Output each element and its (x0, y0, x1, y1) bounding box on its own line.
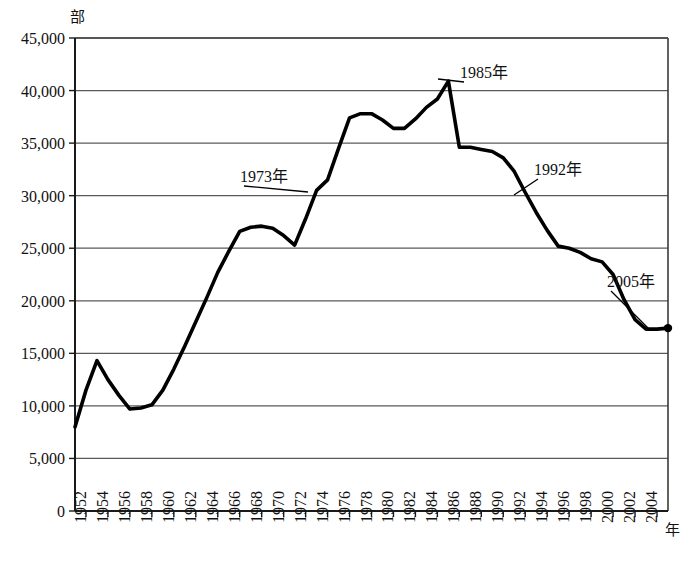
y-tick-label: 35,000 (21, 135, 65, 152)
plot-frame (75, 38, 668, 511)
x-tick-label: 2002 (621, 491, 638, 523)
y-tick-label: 10,000 (21, 398, 65, 415)
line-chart-figure: 05,00010,00015,00020,00025,00030,00035,0… (0, 0, 691, 573)
x-tick-label: 1982 (401, 491, 418, 523)
chart-canvas: 05,00010,00015,00020,00025,00030,00035,0… (0, 0, 691, 573)
annotation-leader-line (244, 186, 308, 192)
x-tick-label: 1952 (72, 491, 89, 523)
x-tick-label: 1968 (248, 491, 265, 523)
x-tick-label: 1994 (533, 491, 550, 523)
x-tick-label: 1962 (182, 491, 199, 523)
x-tick-label: 1956 (116, 491, 133, 523)
x-tick-label: 1986 (445, 491, 462, 523)
x-tick-label: 1984 (423, 491, 440, 523)
x-tick-label: 1988 (467, 491, 484, 523)
annotation-label: 1992年 (534, 161, 582, 178)
y-tick-label: 25,000 (21, 240, 65, 257)
y-tick-label: 0 (57, 503, 65, 520)
y-tick-label: 40,000 (21, 83, 65, 100)
x-tick-label: 1974 (314, 491, 331, 523)
x-axis-tick-labels: 1952195419561958196019621964196619681970… (72, 491, 660, 523)
x-tick-label: 1998 (577, 491, 594, 523)
data-series-group (75, 81, 668, 427)
annotation-leader-line (611, 291, 649, 329)
x-tick-label: 1972 (292, 491, 309, 523)
gridlines-group (75, 38, 668, 458)
x-tick-label: 1990 (489, 491, 506, 523)
y-axis-unit-label: 部 (70, 8, 85, 25)
x-tick-label: 1958 (138, 491, 155, 523)
y-tick-label: 5,000 (29, 450, 65, 467)
data-point-marker (664, 324, 672, 332)
y-axis-tick-labels: 05,00010,00015,00020,00025,00030,00035,0… (21, 30, 65, 520)
y-tick-label: 20,000 (21, 293, 65, 310)
x-tick-label: 1954 (94, 491, 111, 523)
x-tick-label: 1960 (160, 491, 177, 523)
annotation-label: 1973年 (240, 168, 288, 185)
x-tick-label: 2000 (599, 491, 616, 523)
x-tick-label: 1978 (358, 491, 375, 523)
y-tick-label: 15,000 (21, 345, 65, 362)
data-point-markers (664, 324, 672, 332)
series-line-circulation (75, 81, 668, 427)
y-tick-label: 45,000 (21, 30, 65, 47)
x-tick-label: 1992 (511, 491, 528, 523)
x-tick-label: 2004 (643, 491, 660, 523)
annotations-group: 1973年1985年1992年2005年 (240, 64, 655, 329)
annotation-label: 1985年 (460, 64, 508, 81)
y-tick-label: 30,000 (21, 188, 65, 205)
x-axis-unit-label: 年 (665, 521, 680, 538)
x-tick-label: 1980 (379, 491, 396, 523)
x-tick-label: 1970 (270, 491, 287, 523)
x-tick-label: 1966 (226, 491, 243, 523)
x-tick-label: 1976 (336, 491, 353, 523)
x-tick-label: 1964 (204, 491, 221, 523)
x-tick-label: 1996 (555, 491, 572, 523)
annotation-label: 2005年 (607, 273, 655, 290)
